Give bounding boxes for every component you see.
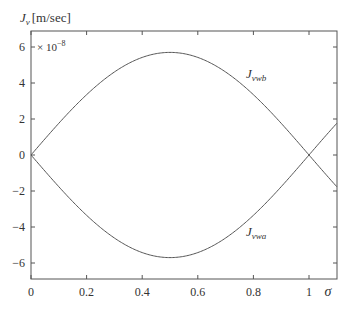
plot-frame [31, 31, 337, 279]
y-axis-label: Jv[m/sec] [20, 10, 71, 27]
x-tick-label: 0.4 [135, 285, 150, 299]
y-tick-label: 6 [19, 40, 25, 54]
x-tick-label: 0.8 [246, 285, 261, 299]
y-tick-label: 0 [19, 148, 25, 162]
curve-j-vwb [31, 52, 337, 186]
y-tick-label: 4 [19, 76, 25, 90]
chart-labels: Jv[m/sec]× 10−8σJvwbJvwa [20, 10, 333, 299]
plot-border [31, 31, 337, 279]
curve-j-vwa [31, 123, 337, 257]
series-label-vwb: Jvwb [246, 66, 267, 83]
x-axis-label: σ [325, 284, 333, 299]
y-multiplier-label: × 10−8 [37, 39, 65, 53]
x-tick-label: 1 [306, 285, 312, 299]
y-tick-label: −4 [12, 220, 25, 234]
series-label-vwa: Jvwa [246, 224, 267, 241]
x-tick-label: 0.6 [190, 285, 205, 299]
x-tick-label: 0 [28, 285, 34, 299]
data-curves [31, 52, 337, 257]
x-tick-label: 0.2 [79, 285, 94, 299]
axis-ticks: 00.20.40.60.816420−2−4−6 [12, 31, 337, 299]
y-tick-label: −2 [12, 184, 25, 198]
line-chart: 00.20.40.60.816420−2−4−6 Jv[m/sec]× 10−8… [0, 0, 351, 309]
y-tick-label: 2 [19, 112, 25, 126]
y-tick-label: −6 [12, 256, 25, 270]
